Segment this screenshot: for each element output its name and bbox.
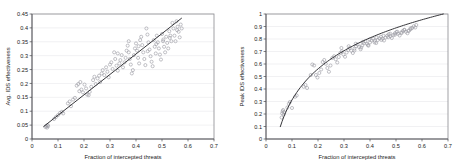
x-tick-label: 0.5 [392,143,400,149]
x-tick-label: 0.3 [340,143,348,149]
x-tick-label: 0.4 [366,143,374,149]
data-point [304,83,307,86]
x-tick-label: 0.3 [106,143,114,149]
data-point [174,40,177,43]
data-point [290,106,293,109]
x-tick-label: 0.5 [158,143,166,149]
data-point [137,56,140,59]
data-point [145,27,148,30]
data-point [111,67,114,70]
data-point [146,33,149,36]
data-point [125,49,128,52]
y-tick-label: 0.2 [20,81,28,87]
chart-svg-left: 00.050.10.150.20.250.30.350.40.4500.10.2… [0,0,236,165]
data-point [141,44,144,47]
y-tick-label: 0.05 [17,122,28,128]
x-tick-label: 0.1 [288,143,296,149]
data-point [81,91,84,94]
x-tick-label: 0 [264,143,267,149]
y-tick-label: 0.1 [254,124,262,130]
y-tick-label: 0 [259,136,262,142]
data-point [150,60,153,63]
data-point [121,66,124,69]
data-point [101,69,104,72]
data-point [151,65,154,68]
data-point [340,46,343,49]
chart-svg-right: 00.10.20.30.40.50.60.70.80.9100.10.20.30… [236,0,472,165]
y-tick-label: 1 [259,11,262,17]
y-axis-group: 00.050.10.150.20.250.30.350.40.45 [17,11,32,142]
datapoints-group [280,23,418,119]
data-point [138,62,141,65]
data-point [375,36,378,39]
y-tick-label: 0.9 [254,24,262,30]
data-point [164,51,167,54]
y-tick-label: 0.3 [20,53,28,59]
data-point [180,27,183,30]
data-point [337,55,340,58]
data-point [127,51,130,54]
x-tick-label: 0.4 [132,143,140,149]
gridlines-group [266,14,448,127]
data-point [124,56,127,59]
x-tick-label: 0.6 [418,143,426,149]
y-tick-label: 0.8 [254,36,262,42]
x-axis-title: Fraction of intercepted threats [84,154,161,160]
data-point [157,47,160,50]
data-point [320,68,323,71]
data-point [178,36,181,39]
x-tick-label: 0.7 [444,143,452,149]
data-point [78,90,81,93]
x-axis-group: 00.10.20.30.40.50.60.7 [264,139,451,149]
x-tick-label: 0 [30,143,33,149]
data-point [98,74,101,77]
data-point [143,57,146,60]
data-point [127,40,130,43]
data-point [114,57,117,60]
data-point [173,34,176,37]
data-point [327,70,330,73]
figure-container: 00.050.10.150.20.250.30.350.40.4500.10.2… [0,0,472,165]
fit-line [44,18,182,126]
data-point [142,51,145,54]
datapoints-group [44,20,183,129]
data-point [137,45,140,48]
data-point [105,66,108,69]
y-tick-label: 0.15 [17,94,28,100]
x-tick-label: 0.1 [54,143,62,149]
data-point [140,35,143,38]
gridlines-group [32,14,214,125]
data-point [85,87,88,90]
x-tick-label: 0.2 [80,143,88,149]
y-tick-label: 0.7 [254,49,262,55]
data-point [179,23,182,26]
data-point [93,75,96,78]
y-axis-title: Peak IDS effectiveness [239,46,245,106]
data-point [154,52,157,55]
data-point [120,54,123,57]
data-point [159,58,162,61]
data-point [326,66,329,69]
data-point [130,72,133,75]
x-tick-label: 0.2 [314,143,322,149]
data-point [139,39,142,42]
data-point [165,35,168,38]
y-tick-label: 0.35 [17,39,28,45]
data-point [170,40,173,43]
x-tick-label: 0.7 [210,143,218,149]
y-tick-label: 0.45 [17,11,28,17]
data-point [134,42,137,45]
data-point [118,62,121,65]
x-axis-group: 00.10.20.30.40.50.60.7 [30,139,217,149]
y-axis-group: 00.10.20.30.40.50.60.70.80.91 [254,11,266,142]
y-tick-label: 0 [25,136,28,142]
y-axis-title: Avg. IDS effectiveness [5,47,11,105]
data-point [106,70,109,73]
y-tick-label: 0.1 [20,108,28,114]
data-point [79,81,82,84]
data-point [119,59,122,62]
y-tick-label: 0.6 [254,61,262,67]
data-point [113,51,116,54]
data-point [318,71,321,74]
data-point [144,64,147,67]
